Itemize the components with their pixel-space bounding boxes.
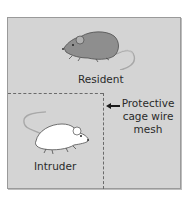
mesh-annotation-line-1: Protective — [118, 97, 178, 110]
intruder-mouse-icon — [18, 111, 94, 159]
mesh-annotation-line-2: cage wire — [118, 110, 178, 123]
resident-label: Resident — [78, 73, 124, 85]
mesh-annotation-line-3: mesh — [118, 123, 178, 136]
divider-vertical — [103, 93, 104, 189]
divider-horizontal — [8, 93, 103, 94]
mesh-annotation: Protective cage wire mesh — [118, 97, 178, 136]
intruder-label: Intruder — [34, 160, 76, 172]
resident-mouse-icon — [58, 26, 140, 70]
